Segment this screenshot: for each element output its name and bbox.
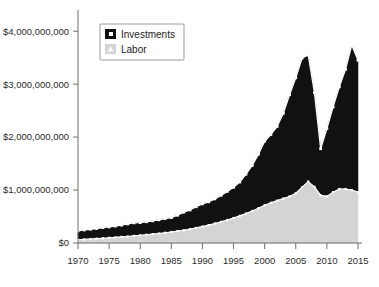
y-tick-label: $3,000,000,000 [3, 79, 69, 90]
total-line-marker [201, 202, 204, 205]
labor-line-marker [139, 234, 141, 236]
total-line-marker [189, 209, 192, 212]
labor-line-marker [313, 186, 315, 188]
labor-line-marker [239, 215, 241, 217]
labor-line-marker [189, 228, 191, 230]
labor-line-marker [295, 192, 297, 194]
total-line-marker [164, 217, 167, 220]
total-line-marker [151, 219, 154, 222]
labor-line-marker [288, 195, 290, 197]
total-line-marker [145, 220, 148, 223]
labor-line-marker [344, 188, 346, 190]
x-tick-label: 1970 [67, 255, 88, 266]
x-tick-label: 2010 [316, 255, 337, 266]
labor-line-marker [351, 189, 353, 191]
y-tick-label: $1,000,000,000 [3, 184, 69, 195]
x-tick-label: 1985 [161, 255, 182, 266]
labor-line-marker [338, 188, 340, 190]
labor-line-marker [264, 204, 266, 206]
total-line-marker [176, 214, 179, 217]
chart-container: $0$1,000,000,000$2,000,000,000$3,000,000… [0, 0, 379, 287]
y-tick-label: $0 [58, 237, 69, 248]
total-line-marker [294, 76, 297, 79]
total-line-marker [213, 197, 216, 200]
total-line-marker [288, 93, 291, 96]
legend-item-investments[interactable]: Investments [105, 29, 175, 40]
x-tick-label: 1995 [223, 255, 244, 266]
total-line-marker [269, 133, 272, 136]
total-line-marker [133, 221, 136, 224]
total-line-marker [238, 181, 241, 184]
total-line-marker [282, 112, 285, 115]
labor-line-marker [201, 225, 203, 227]
total-line-marker [332, 106, 335, 109]
total-line-marker [157, 218, 160, 221]
labor-line-marker [357, 191, 359, 193]
x-tick-label: 1990 [192, 255, 213, 266]
total-line-marker [220, 194, 223, 197]
total-line-marker [207, 200, 210, 203]
labor-line-marker [183, 229, 185, 231]
labor-line-marker [307, 180, 309, 182]
labor-line-marker [270, 202, 272, 204]
total-line-marker [108, 226, 111, 229]
total-line-marker [319, 147, 322, 150]
x-tick-label: 2005 [285, 255, 306, 266]
y-tick-label: $2,000,000,000 [3, 131, 69, 142]
labor-line-marker [96, 238, 98, 240]
total-line-marker [357, 59, 360, 62]
labor-line-marker [257, 207, 259, 209]
x-tick-label: 1980 [130, 255, 151, 266]
labor-line-marker [332, 191, 334, 193]
total-line-marker [182, 211, 185, 214]
labor-line-marker [208, 224, 210, 226]
labor-line-marker [176, 230, 178, 232]
labor-line-marker [152, 233, 154, 235]
total-line-marker [257, 153, 260, 156]
total-line-marker [195, 205, 198, 208]
total-line-marker [313, 91, 316, 94]
total-line-marker [307, 54, 310, 57]
total-line-marker [114, 225, 117, 228]
labor-line-marker [108, 237, 110, 239]
total-line-marker [263, 140, 266, 143]
y-tick-label: $4,000,000,000 [3, 26, 69, 37]
total-line-marker [251, 164, 254, 167]
chart-legend[interactable]: Investments Labor [100, 24, 184, 60]
labor-line-marker [83, 238, 85, 240]
total-line-marker [95, 227, 98, 230]
x-tick-label: 2000 [254, 255, 275, 266]
labor-line-marker [114, 236, 116, 238]
total-line-marker [101, 226, 104, 229]
total-line-marker [89, 228, 92, 231]
legend-item-labor[interactable]: Labor [105, 44, 147, 55]
total-line-marker [325, 127, 328, 130]
total-line-marker [301, 57, 304, 60]
total-line-marker [245, 173, 248, 176]
labor-line-marker [276, 200, 278, 202]
labor-line-marker [232, 217, 234, 219]
labor-line-marker [245, 212, 247, 214]
total-line-marker [126, 223, 129, 226]
x-tick-label: 1975 [99, 255, 120, 266]
legend-label-labor: Labor [121, 44, 147, 55]
x-tick-label: 2015 [347, 255, 368, 266]
labor-line-marker [145, 234, 147, 236]
labor-line-marker [220, 221, 222, 223]
labor-line-marker [214, 222, 216, 224]
labor-line-marker [127, 235, 129, 237]
total-line-marker [232, 186, 235, 189]
stacked-area-chart: $0$1,000,000,000$2,000,000,000$3,000,000… [0, 0, 379, 287]
labor-line-marker [164, 232, 166, 234]
total-line-marker [170, 216, 173, 219]
labor-line-marker [120, 236, 122, 238]
total-line-marker [276, 125, 279, 128]
total-line-marker [338, 85, 341, 88]
total-line-marker [139, 221, 142, 224]
total-line-marker [344, 68, 347, 71]
legend-label-investments: Investments [121, 29, 175, 40]
labor-line-marker [320, 194, 322, 196]
total-line-marker [226, 190, 229, 193]
labor-line-marker [158, 232, 160, 234]
total-line-marker [350, 44, 353, 47]
